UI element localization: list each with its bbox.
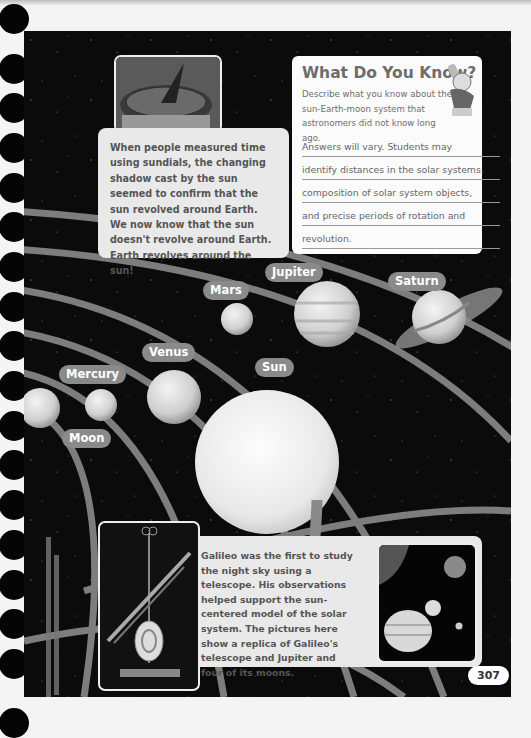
sundial-text: When people measured time using sundials… (110, 142, 271, 276)
label-mercury: Mercury (59, 365, 126, 384)
label-moon: Moon (62, 429, 111, 448)
copyright-vertical-text (46, 537, 62, 697)
label-sun: Sun (255, 358, 294, 377)
label-venus: Venus (142, 343, 195, 362)
jupiter-moons-photo (377, 543, 477, 663)
answer-line[interactable]: Answers will vary. Students may (302, 136, 500, 157)
venus-globe (147, 370, 201, 424)
mascot-icon (440, 62, 484, 118)
jupiter-moons-icon (379, 545, 475, 661)
page-top-shadow (0, 0, 531, 6)
label-jupiter: Jupiter (265, 263, 323, 282)
label-mars: Mars (203, 281, 249, 300)
binder-hole (0, 4, 29, 34)
sundial-icon (116, 57, 220, 131)
mercury-globe (85, 389, 117, 421)
jupiter-globe (294, 281, 360, 347)
solar-system-page: When people measured time using sundials… (24, 31, 511, 697)
galileo-text: Galileo was the first to study the night… (201, 549, 359, 680)
page-number: 307 (468, 666, 509, 685)
answer-line[interactable]: composition of solar system objects, (302, 182, 500, 203)
sundial-card: When people measured time using sundials… (98, 128, 289, 258)
sundial-photo (114, 55, 222, 133)
what-do-you-know-card: What Do You Know? Describe what you know… (292, 56, 482, 254)
binder-hole (0, 708, 29, 738)
saturn-globe (412, 290, 466, 344)
mars-globe (221, 303, 253, 335)
answer-line[interactable]: and precise periods of rotation and (302, 205, 500, 226)
telescope-icon (100, 523, 198, 689)
galileo-telescope-photo (98, 521, 200, 691)
answer-line[interactable]: identify distances in the solar systems, (302, 159, 500, 180)
answer-line[interactable]: revolution. (302, 228, 500, 249)
label-saturn: Saturn (388, 272, 446, 291)
